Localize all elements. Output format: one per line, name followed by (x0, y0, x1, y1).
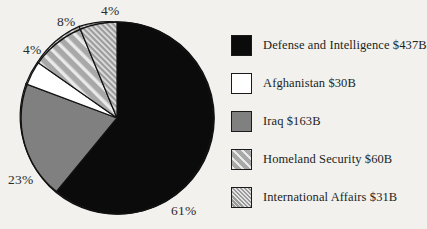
solid-white-swatch (231, 73, 252, 94)
legend-item-defense-and-intelligence[interactable]: Defense and Intelligence $437B (231, 26, 421, 64)
legend-label-afghanistan: Afghanistan $30B (263, 76, 356, 91)
legend-label-defense-and-intelligence: Defense and Intelligence $437B (263, 38, 427, 53)
legend-label-international-affairs: International Affairs $31B (263, 190, 397, 205)
legend-label-homeland-security: Homeland Security $60B (263, 152, 392, 167)
legend: Defense and Intelligence $437B Afghanist… (231, 26, 421, 216)
pie-label-defense-and-intelligence: 61% (171, 203, 196, 219)
solid-black-swatch (231, 35, 252, 56)
pie-plot-area: 61% 23% 4% 8% 4% (0, 0, 229, 229)
legend-item-international-affairs[interactable]: International Affairs $31B (231, 178, 421, 216)
fine-hatch-swatch (231, 187, 252, 208)
pie-label-homeland-security: 8% (57, 14, 75, 30)
legend-item-homeland-security[interactable]: Homeland Security $60B (231, 140, 421, 178)
solid-gray-swatch (231, 111, 252, 132)
legend-item-afghanistan[interactable]: Afghanistan $30B (231, 64, 421, 102)
pie-label-afghanistan: 4% (23, 42, 41, 58)
pie-svg (0, 0, 229, 229)
pie-label-iraq: 23% (8, 172, 33, 188)
wide-hatch-swatch (231, 149, 252, 170)
legend-label-iraq: Iraq $163B (263, 114, 321, 129)
pie-label-international-affairs: 4% (101, 3, 119, 19)
legend-item-iraq[interactable]: Iraq $163B (231, 102, 421, 140)
